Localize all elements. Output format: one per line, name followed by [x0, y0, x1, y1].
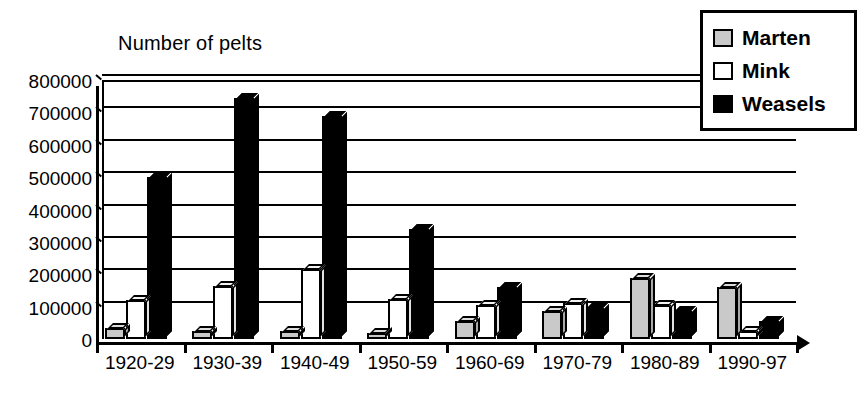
x-axis-tick-label: 1920-29: [105, 352, 175, 374]
bar-marten-1930-39: [192, 331, 212, 339]
bar-side-face: [253, 94, 259, 337]
x-axis-tick-label: 1930-39: [192, 352, 262, 374]
bar-mink-1990-97: [738, 331, 758, 339]
bar-marten-1920-29: [105, 328, 125, 339]
bar-side-face: [691, 307, 697, 337]
bar-mink-1920-29: [126, 300, 146, 339]
pelts-bar-chart: Number of pelts 010000020000030000040000…: [0, 0, 867, 393]
y-axis-tick-label: 500000: [29, 169, 92, 188]
white-swatch-icon: [713, 62, 733, 80]
bar-side-face: [166, 173, 172, 337]
y-axis-tick-label: 800000: [29, 72, 92, 91]
y-axis-tick-label: 300000: [29, 233, 92, 252]
x-axis-tick-label: 1980-89: [630, 352, 700, 374]
bar-marten-1950-59: [367, 333, 387, 339]
y-axis-tick-label: 400000: [29, 201, 92, 220]
x-axis-tick-label: 1960-69: [455, 352, 525, 374]
x-axis-tick-label: 1950-59: [367, 352, 437, 374]
bar-marten-1970-79: [542, 311, 562, 339]
bar-marten-1990-97: [717, 287, 737, 339]
black-swatch-icon: [713, 95, 733, 113]
bar-group: [105, 86, 167, 339]
gridline: [102, 74, 796, 76]
bar-group: [280, 86, 342, 339]
bar-group: [367, 86, 429, 339]
bar-group: [455, 86, 517, 339]
bar-side-face: [232, 282, 238, 337]
y-axis-tick-label: 600000: [29, 136, 92, 155]
y-axis-tick-label: 100000: [29, 298, 92, 317]
bar-side-face: [516, 283, 522, 337]
legend-item-marten[interactable]: Marten: [713, 21, 844, 54]
bar-side-face: [778, 317, 784, 337]
bar-marten-1980-89: [630, 278, 650, 340]
bar-side-face: [649, 274, 655, 338]
legend-item-label: Weasels: [742, 92, 826, 116]
chart-legend: MartenMinkWeasels: [700, 10, 857, 131]
bar-side-face: [341, 112, 347, 337]
bars-layer: [96, 80, 796, 345]
legend-item-label: Marten: [742, 26, 811, 50]
bar-group: [542, 86, 604, 339]
bar-marten-1940-49: [280, 331, 300, 339]
y-axis-tick-label: 700000: [29, 104, 92, 123]
bar-group: [630, 86, 692, 339]
bar-side-face: [736, 283, 742, 337]
bar-mink-1950-59: [388, 299, 408, 339]
bar-side-face: [670, 301, 676, 337]
x-axis-tick-labels: 1920-291930-391940-491950-591960-691970-…: [96, 352, 816, 386]
legend-item-weasels[interactable]: Weasels: [713, 87, 844, 120]
bar-marten-1960-69: [455, 321, 475, 339]
y-axis-tick-label: 200000: [29, 266, 92, 285]
y-axis-tick-label: 0: [81, 331, 92, 350]
bar-side-face: [145, 296, 151, 337]
x-axis-tick-label: 1970-79: [542, 352, 612, 374]
bar-group: [192, 86, 254, 339]
bar-side-face: [495, 301, 501, 337]
bar-side-face: [320, 265, 326, 337]
gray-swatch-icon: [713, 29, 733, 47]
legend-item-label: Mink: [742, 59, 790, 83]
x-axis-line: [96, 342, 802, 345]
x-axis-tick-label: 1940-49: [280, 352, 350, 374]
legend-item-mink[interactable]: Mink: [713, 54, 844, 87]
bar-side-face: [603, 304, 609, 337]
bar-side-face: [428, 225, 434, 337]
chart-title: Number of pelts: [118, 32, 262, 55]
y-axis-tick-labels: 0100000200000300000400000500000600000700…: [0, 0, 92, 393]
x-axis-tick-label: 1990-97: [717, 352, 787, 374]
bar-side-face: [407, 295, 413, 337]
plot-area: [96, 80, 796, 345]
